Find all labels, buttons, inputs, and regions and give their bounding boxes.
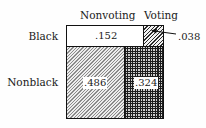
row-label-nonblack: Nonblack [0,76,58,88]
column-label-nonvoting: Nonvoting [80,9,136,21]
row-label-black: Black [0,30,58,42]
value-black-nonvoting: .152 [94,30,118,42]
value-nonblack-voting: .324 [134,77,158,89]
value-nonblack-nonvoting: .486 [83,77,107,89]
pointer-arrow-icon [150,28,180,42]
value-black-voting: .038 [177,31,201,43]
column-label-voting: Voting [144,9,178,21]
